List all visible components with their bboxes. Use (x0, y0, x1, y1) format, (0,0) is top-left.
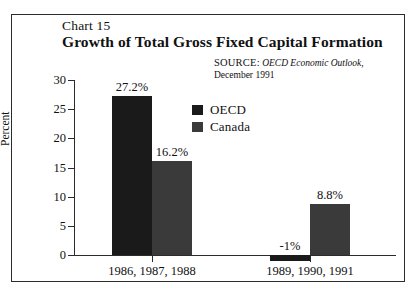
legend-swatch-canada (192, 122, 203, 132)
y-axis-tick-label: 20 (36, 132, 66, 145)
y-axis-tick-label: 15 (36, 162, 66, 175)
legend-swatch-oecd (192, 105, 203, 115)
chart-figure: Chart 15 Growth of Total Gross Fixed Cap… (0, 0, 420, 300)
source-publication: OECD Economic Outlook (262, 58, 361, 68)
page-title: Growth of Total Gross Fixed Capital Form… (62, 33, 383, 51)
bar-canada-0 (152, 161, 192, 256)
source-note: SOURCE: OECD Economic Outlook, December … (214, 57, 404, 81)
y-axis-tick (68, 109, 75, 110)
x-axis-category-label: 1989, 1990, 1991 (266, 264, 354, 279)
x-axis-line (74, 255, 396, 256)
x-axis-category-label: 1986, 1987, 1988 (108, 264, 196, 279)
y-axis-tick (68, 255, 75, 256)
y-axis-tick-label: 0 (36, 249, 66, 262)
bar-value-label: -1% (280, 239, 301, 254)
legend-item-oecd: OECD (192, 102, 250, 117)
y-axis-tick-label: 10 (36, 191, 66, 204)
bar-value-label: 8.8% (317, 188, 343, 203)
bar-value-label: 16.2% (156, 145, 188, 160)
bar-canada-1 (310, 204, 350, 255)
chart-legend: OECD Canada (192, 102, 250, 136)
legend-label-oecd: OECD (210, 103, 246, 116)
x-axis-tick (310, 256, 311, 262)
y-axis-tick (68, 138, 75, 139)
y-axis-tick (68, 168, 75, 169)
y-axis-tick-label: 30 (36, 74, 66, 87)
source-label: SOURCE: (214, 57, 260, 68)
y-axis-tick-label: 25 (36, 103, 66, 116)
legend-item-canada: Canada (192, 119, 250, 134)
y-axis-tick (68, 226, 75, 227)
y-axis-tick (68, 80, 75, 81)
y-axis-title: Percent (0, 112, 11, 146)
y-axis-tick-label: 5 (36, 220, 66, 233)
y-axis-tick (68, 197, 75, 198)
x-axis-tick (152, 256, 153, 262)
bar-oecd-1 (270, 255, 310, 261)
bar-value-label: 27.2% (116, 80, 148, 95)
bar-oecd-0 (112, 96, 152, 255)
chart-number: Chart 15 (62, 18, 110, 34)
legend-label-canada: Canada (210, 120, 250, 133)
